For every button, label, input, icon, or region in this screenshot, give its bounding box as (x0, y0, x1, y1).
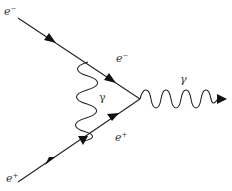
photon-out-wave (140, 90, 220, 108)
arrow-icon (45, 157, 55, 165)
diagram-canvas (0, 0, 232, 191)
arrow-icon (217, 94, 227, 104)
photon-internal-wave (76, 62, 98, 141)
arrow-icon (44, 33, 56, 43)
label-sup: − (123, 52, 129, 60)
photon-out-label: γ (180, 74, 187, 85)
electron-in-label: e− (4, 6, 16, 17)
feynman-diagram: e− e+ e− e+ γ γ (0, 0, 232, 191)
arrow-icon (104, 73, 116, 83)
label-sup: − (11, 5, 17, 13)
positron-in-label: e+ (6, 173, 18, 184)
label-sup: + (13, 172, 19, 180)
positron-internal-label: e+ (115, 132, 127, 143)
label-sup: + (122, 131, 128, 139)
electron-internal-label: e− (116, 53, 128, 64)
photon-internal-label: γ (99, 92, 106, 103)
